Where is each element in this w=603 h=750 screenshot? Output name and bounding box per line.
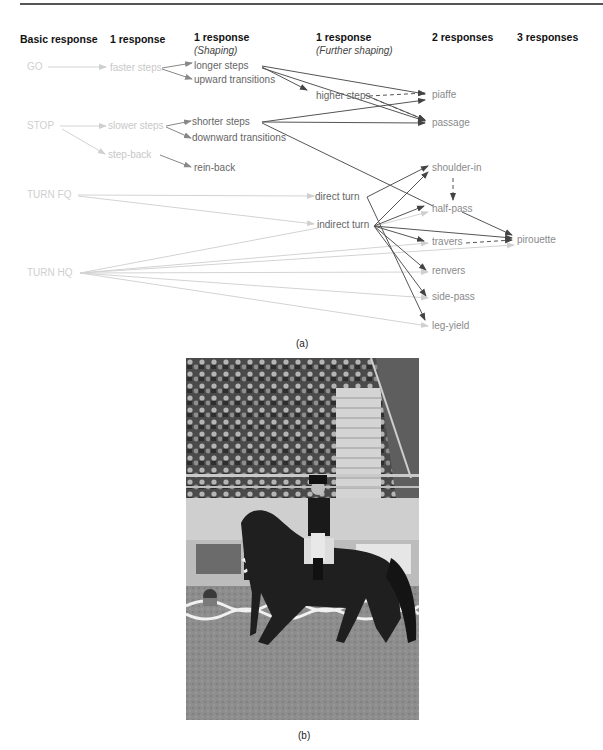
dressage-photo: [186, 358, 419, 720]
node-rein-back: rein-back: [194, 162, 235, 174]
node-piaffe: piaffe: [432, 89, 456, 101]
node-slower-steps: slower steps: [108, 120, 164, 132]
node-shoulder-in: shoulder-in: [432, 162, 481, 174]
node-faster-steps: faster steps: [110, 62, 162, 74]
caption-b: (b): [298, 730, 310, 741]
photo-illustration: [186, 358, 419, 720]
node-stop: STOP: [27, 120, 54, 132]
node-passage: passage: [432, 117, 470, 129]
node-indirect-turn: indirect turn: [317, 219, 369, 231]
node-direct-turn: direct turn: [315, 191, 359, 203]
node-turn-hq: TURN HQ: [27, 267, 73, 279]
node-leg-yield: leg-yield: [432, 320, 469, 332]
node-turn-fq: TURN FQ: [27, 189, 71, 201]
node-renvers: renvers: [432, 265, 465, 277]
node-shorter-steps: shorter steps: [192, 116, 250, 128]
node-downward-transitions: downward transitions: [192, 132, 286, 144]
node-higher-steps: higher steps: [316, 90, 370, 102]
node-travers: travers: [432, 236, 463, 248]
diagram-arrows: [0, 0, 603, 360]
node-longer-steps: longer steps: [194, 60, 248, 72]
node-go: GO: [27, 61, 43, 73]
node-side-pass: side-pass: [432, 291, 475, 303]
node-pirouette: pirouette: [517, 234, 556, 246]
node-step-back: step-back: [108, 149, 151, 161]
caption-a: (a): [296, 338, 308, 349]
node-upward-transitions: upward transitions: [194, 74, 275, 86]
node-half-pass: half-pass: [432, 203, 473, 215]
